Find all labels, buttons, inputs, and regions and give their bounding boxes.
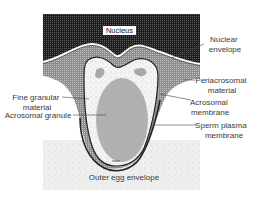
nucleus-label: Nucleus [103,26,136,35]
periacrosomal-material-label: Periacrosomal material [195,76,248,95]
svg-text:Nucleus: Nucleus [106,26,133,35]
acrosomal-granule-label: Acrosomal granule [5,111,72,120]
nuclear-envelope-label: Nuclear envelope [209,35,242,54]
acrosomal-granule [96,78,148,162]
acrosome-diagram: Nucleus Nuclear envelope Periacrosomal m… [0,0,258,206]
sperm-plasma-membrane-label: Sperm plasma membrane [195,121,249,140]
outer-egg-envelope-label: Outer egg envelope [89,173,160,182]
fine-granular-material-label: Fine granular material [12,93,61,112]
acrosomal-membrane-label: Acrosomal membrane [190,98,230,117]
